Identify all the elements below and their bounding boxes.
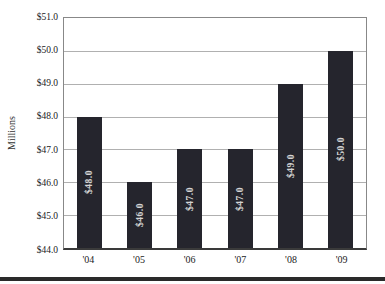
y-tick-label: $44.0: [0, 245, 58, 256]
bar-value-label: $49.0: [286, 154, 296, 178]
gridline: [64, 84, 366, 85]
bar-09: $50.0: [328, 51, 353, 248]
bar-value-label: $47.0: [185, 187, 195, 211]
gridline: [64, 51, 366, 52]
y-tick-label: $47.0: [0, 145, 58, 156]
y-tick-label: $49.0: [0, 78, 58, 89]
gridline: [64, 117, 366, 118]
bar-05: $46.0: [127, 182, 152, 248]
x-tick-label: '06: [184, 254, 196, 265]
x-tick-label: '04: [82, 254, 94, 265]
x-axis: '04'05'06'07'08'09: [63, 254, 367, 268]
footer-rule: [0, 277, 385, 281]
y-tick-label: $46.0: [0, 178, 58, 189]
x-tick-label: '07: [234, 254, 246, 265]
y-tick-label: $48.0: [0, 111, 58, 122]
bar-06: $47.0: [177, 149, 202, 248]
y-tick-label: $45.0: [0, 211, 58, 222]
bar-value-label: $47.0: [235, 187, 245, 211]
gridline: [64, 182, 366, 183]
y-axis: $51.0$50.0$49.0$48.0$47.0$46.0$45.0$44.0: [0, 17, 58, 250]
bar-08: $49.0: [278, 84, 303, 248]
y-tick-label: $51.0: [0, 12, 58, 23]
y-tick-label: $50.0: [0, 45, 58, 56]
plot-area: $48.0$46.0$47.0$47.0$49.0$50.0: [63, 17, 367, 250]
bar-07: $47.0: [228, 149, 253, 248]
bar-chart-figure: Millions $51.0$50.0$49.0$48.0$47.0$46.0$…: [0, 0, 385, 284]
bar-value-label: $48.0: [84, 170, 94, 194]
x-tick-label: '08: [285, 254, 297, 265]
x-tick-label: '09: [336, 254, 348, 265]
bar-value-label: $46.0: [135, 203, 145, 227]
gridline: [64, 215, 366, 216]
bar-04: $48.0: [77, 117, 102, 248]
bar-value-label: $50.0: [336, 137, 346, 161]
gridline: [64, 149, 366, 150]
x-tick-label: '05: [133, 254, 145, 265]
